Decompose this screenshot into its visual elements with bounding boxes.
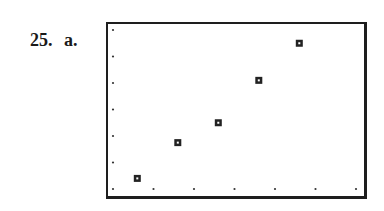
tick-dot <box>112 82 114 84</box>
data-point-marker <box>215 119 222 126</box>
tick-dot <box>112 29 114 31</box>
tick-dot <box>274 188 276 190</box>
data-point-marker <box>174 139 181 146</box>
tick-dot <box>112 55 114 57</box>
tick-dot <box>112 188 114 190</box>
data-point-marker <box>296 40 303 47</box>
tick-dot <box>152 188 154 190</box>
tick-dot <box>355 188 357 190</box>
tick-dot <box>112 135 114 137</box>
data-point-marker <box>134 175 141 182</box>
scatter-plot <box>0 0 384 211</box>
tick-dot <box>193 188 195 190</box>
data-point-marker <box>255 77 262 84</box>
tick-dot <box>112 108 114 110</box>
tick-dot <box>233 188 235 190</box>
tick-dot <box>314 188 316 190</box>
tick-dots <box>112 29 357 190</box>
tick-dot <box>112 161 114 163</box>
data-points <box>134 40 303 182</box>
